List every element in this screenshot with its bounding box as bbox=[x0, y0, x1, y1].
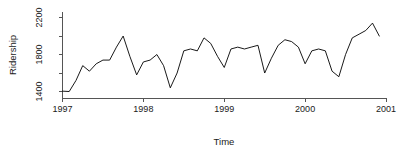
chart-figure: 140018002200 19971998199920002001 Riders… bbox=[0, 0, 401, 153]
y-tick-label: 1800 bbox=[34, 45, 44, 65]
y-tick-label: 1400 bbox=[34, 82, 44, 102]
x-tick-label: 1997 bbox=[52, 104, 72, 114]
ridership-series-line bbox=[63, 23, 380, 91]
y-axis-title: Ridership bbox=[7, 35, 18, 75]
y-axis-tick-labels: 140018002200 bbox=[34, 8, 44, 102]
ridership-line-chart: 140018002200 19971998199920002001 Riders… bbox=[0, 0, 401, 153]
y-axis-ticks bbox=[59, 18, 63, 92]
x-axis-tick-labels: 19971998199920002001 bbox=[52, 104, 396, 114]
x-tick-label: 2001 bbox=[376, 104, 396, 114]
y-tick-label: 2200 bbox=[34, 8, 44, 28]
x-tick-label: 2000 bbox=[295, 104, 315, 114]
x-axis-title: Time bbox=[214, 136, 235, 147]
x-tick-label: 1998 bbox=[133, 104, 153, 114]
x-tick-label: 1999 bbox=[214, 104, 234, 114]
